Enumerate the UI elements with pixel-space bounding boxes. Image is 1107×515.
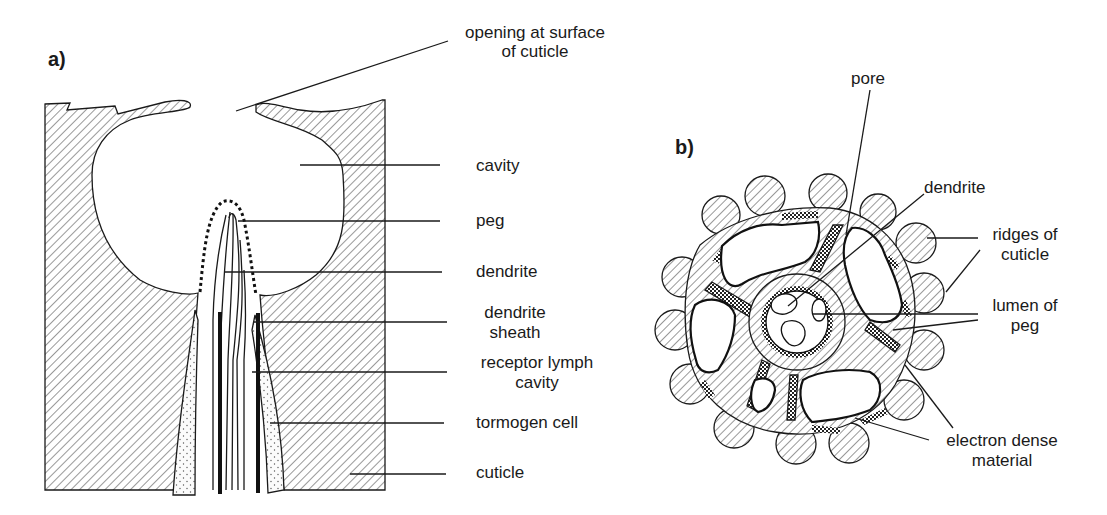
label-edm-1: electron dense	[946, 431, 1058, 450]
label-dendrite-b: dendrite	[924, 178, 985, 197]
panel-b-label: b)	[675, 136, 694, 158]
label-ridges-2: cuticle	[1001, 245, 1049, 264]
label-sheath-2: sheath	[489, 323, 540, 342]
dendrite-sheath-right	[256, 313, 260, 493]
dendrite-sheath-left	[218, 312, 222, 494]
peg-outline	[200, 201, 256, 295]
leader-ridges-2	[946, 250, 980, 292]
label-ridges-1: ridges of	[992, 225, 1057, 244]
label-cuticle: cuticle	[476, 463, 524, 482]
label-tormogen: tormogen cell	[476, 413, 578, 432]
label-sheath-1: dendrite	[484, 303, 545, 322]
cuticle-block	[45, 100, 385, 490]
label-lymph-1: receptor lymph	[481, 353, 593, 372]
panel-a: a) opening at surface of cut	[45, 23, 605, 495]
label-lumen-1: lumen of	[992, 296, 1057, 315]
label-pore: pore	[851, 69, 885, 88]
panel-b: b)	[655, 69, 1058, 470]
label-opening-2: of cuticle	[501, 42, 568, 61]
label-edm-2: material	[972, 451, 1032, 470]
label-opening-1: opening at surface	[465, 23, 605, 42]
sensillum-diagram: a) opening at surface of cut	[0, 0, 1107, 515]
panel-a-label: a)	[48, 48, 66, 70]
leader-opening	[236, 41, 448, 111]
label-lumen-2: peg	[1011, 316, 1039, 335]
label-peg: peg	[476, 211, 504, 230]
label-lymph-2: cavity	[515, 373, 559, 392]
label-dendrite: dendrite	[476, 262, 537, 281]
label-cavity: cavity	[476, 156, 520, 175]
